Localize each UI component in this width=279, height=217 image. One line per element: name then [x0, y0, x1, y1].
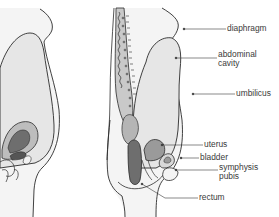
- label-abdominal-cavity: abdominal cavity: [218, 50, 257, 68]
- label-bladder: bladder: [200, 153, 228, 162]
- label-diaphragm: diaphragm: [227, 24, 267, 33]
- label-uterus: uterus: [204, 140, 227, 149]
- rectum-organ: [128, 140, 142, 185]
- label-symphysis-pubis: symphysis pubis: [219, 163, 258, 181]
- label-rectum: rectum: [199, 193, 225, 202]
- left-figure: [0, 8, 59, 217]
- label-umbilicus: umbilicus: [236, 89, 271, 98]
